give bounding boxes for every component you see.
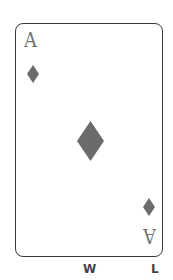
- label-l: L: [151, 263, 159, 275]
- label-w: W: [83, 263, 96, 275]
- diamond-icon-center: [77, 121, 104, 161]
- card-rank-top: A: [24, 30, 37, 51]
- diamond-icon-top-left: [27, 65, 39, 83]
- diamond-icon-bottom-right: [143, 198, 155, 216]
- card-rank-bottom: A: [143, 225, 156, 246]
